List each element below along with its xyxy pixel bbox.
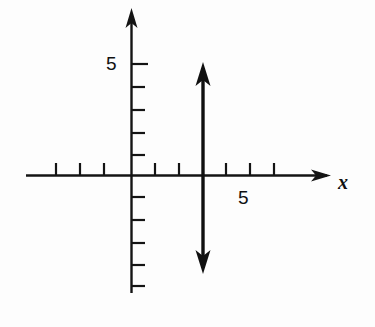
x-axis-tick-label-5: 5 [238, 188, 249, 207]
x-axis-ticks-negative [56, 163, 104, 175]
graph-figure: 5 5 x [0, 0, 375, 327]
y-axis-ticks-negative [131, 197, 145, 286]
x-axis-name-label: x [338, 172, 348, 192]
y-axis-tick-label-5: 5 [106, 54, 117, 73]
coordinate-plane-svg [0, 0, 375, 327]
x-axis-ticks-positive [155, 163, 274, 175]
y-axis-ticks-positive [131, 64, 148, 155]
